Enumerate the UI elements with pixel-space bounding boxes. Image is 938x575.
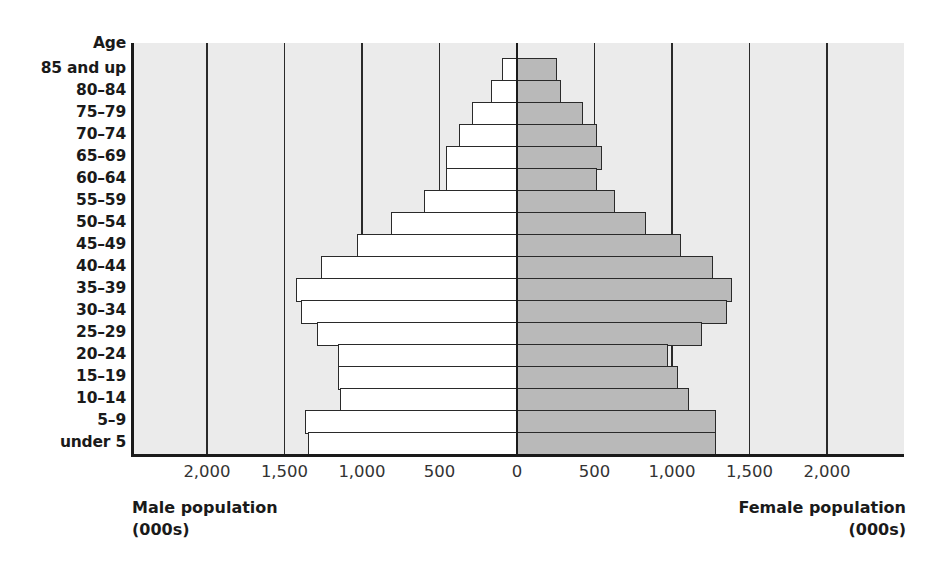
female-bar bbox=[516, 388, 689, 412]
y-axis-line bbox=[131, 43, 134, 457]
male-bar bbox=[472, 102, 518, 126]
female-bar bbox=[516, 146, 602, 170]
x-tick-label: 1,500 bbox=[261, 462, 308, 481]
x-tick-label: 1,500 bbox=[726, 462, 773, 481]
female-bar bbox=[516, 102, 583, 126]
female-bar bbox=[516, 366, 678, 390]
age-label: 85 and up bbox=[41, 57, 126, 79]
female-bar bbox=[516, 58, 557, 82]
male-bar bbox=[391, 212, 518, 236]
gridline bbox=[826, 43, 828, 455]
male-bar bbox=[321, 256, 518, 280]
age-label: 80–84 bbox=[76, 79, 126, 101]
gridline bbox=[206, 43, 208, 455]
male-axis-title-line2: (000s) bbox=[132, 519, 278, 541]
male-bar bbox=[338, 344, 518, 368]
x-tick-label: 0 bbox=[512, 462, 523, 481]
male-bar bbox=[446, 146, 518, 170]
female-bar bbox=[516, 278, 732, 302]
male-axis-title-line1: Male population bbox=[132, 497, 278, 519]
female-bar bbox=[516, 80, 561, 104]
female-bar bbox=[516, 344, 668, 368]
age-label: 55–59 bbox=[76, 189, 126, 211]
male-bar bbox=[308, 432, 518, 456]
x-tick-label: 1,000 bbox=[648, 462, 695, 481]
x-tick-label: 500 bbox=[424, 462, 456, 481]
age-label: 20–24 bbox=[76, 343, 126, 365]
female-bar bbox=[516, 124, 597, 148]
female-bar bbox=[516, 256, 713, 280]
male-bar bbox=[491, 80, 518, 104]
male-bar bbox=[424, 190, 518, 214]
x-axis-line bbox=[131, 454, 904, 457]
male-bar bbox=[446, 168, 518, 192]
male-bar bbox=[357, 234, 518, 258]
female-bar bbox=[516, 234, 681, 258]
male-bar bbox=[338, 366, 518, 390]
x-tick-label: 1,000 bbox=[338, 462, 385, 481]
female-bar bbox=[516, 300, 727, 324]
female-bar bbox=[516, 190, 615, 214]
age-label: 25–29 bbox=[76, 321, 126, 343]
age-label: 60–64 bbox=[76, 167, 126, 189]
male-bar bbox=[340, 388, 518, 412]
age-label: 70–74 bbox=[76, 123, 126, 145]
age-label: under 5 bbox=[60, 431, 126, 453]
age-label: 40–44 bbox=[76, 255, 126, 277]
age-label: 45–49 bbox=[76, 233, 126, 255]
gridline bbox=[749, 43, 751, 455]
female-bar bbox=[516, 322, 702, 346]
male-bar bbox=[305, 410, 518, 434]
female-bar bbox=[516, 410, 716, 434]
female-bar bbox=[516, 168, 597, 192]
female-axis-title: Female population (000s) bbox=[738, 497, 906, 541]
male-bar bbox=[301, 300, 518, 324]
age-label: 75–79 bbox=[76, 101, 126, 123]
x-tick-label: 2,000 bbox=[183, 462, 230, 481]
age-label: 30–34 bbox=[76, 299, 126, 321]
center-axis-line bbox=[516, 43, 518, 455]
age-label: 5–9 bbox=[97, 409, 126, 431]
male-bar bbox=[296, 278, 518, 302]
age-label: 15–19 bbox=[76, 365, 126, 387]
x-tick-label: 2,000 bbox=[803, 462, 850, 481]
female-bar bbox=[516, 212, 646, 236]
male-bar bbox=[317, 322, 518, 346]
gridline bbox=[284, 43, 286, 455]
male-bar bbox=[459, 124, 518, 148]
female-bar bbox=[516, 432, 716, 456]
age-axis-header: Age bbox=[93, 32, 126, 54]
male-axis-title: Male population (000s) bbox=[132, 497, 278, 541]
age-label: 10–14 bbox=[76, 387, 126, 409]
female-axis-title-line1: Female population bbox=[738, 497, 906, 519]
x-tick-label: 500 bbox=[579, 462, 611, 481]
age-label: 65–69 bbox=[76, 145, 126, 167]
age-label: 35–39 bbox=[76, 277, 126, 299]
female-axis-title-line2: (000s) bbox=[738, 519, 906, 541]
age-label: 50–54 bbox=[76, 211, 126, 233]
population-pyramid-chart: Age 85 and up80–8475–7970–7465–6960–6455… bbox=[0, 0, 938, 575]
